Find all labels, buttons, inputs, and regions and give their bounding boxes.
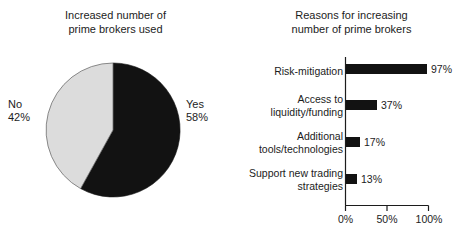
x-tick-label-0: 0% <box>331 214 360 225</box>
pie-label-yes-value: 58% <box>186 111 226 124</box>
pie-label-no-name: No <box>8 98 44 111</box>
bar-value-3: 13% <box>361 174 382 184</box>
bar-category-label-2: Additional tools/technologies <box>259 130 343 155</box>
bar-value-0: 97% <box>431 64 452 74</box>
pie-label-no: No 42% <box>8 98 44 124</box>
bar-0[interactable] <box>346 64 427 74</box>
bar-value-2: 17% <box>364 137 385 147</box>
bar-chart-panel: Reasons for increasing number of prime b… <box>231 0 462 240</box>
x-tick-label-100: 100% <box>410 214 448 225</box>
bar-3[interactable] <box>346 174 357 184</box>
bar-chart-axes <box>231 0 462 240</box>
x-tick-label-50: 50% <box>370 214 404 225</box>
pie-label-no-value: 42% <box>8 111 44 124</box>
bar-2[interactable] <box>346 137 360 147</box>
pie-chart-panel: Increased number of prime brokers used N… <box>0 0 231 240</box>
figure-two-panel-chart: Increased number of prime brokers used N… <box>0 0 462 240</box>
bar-category-label-1: Access to liquidity/funding <box>271 93 343 118</box>
bar-value-1: 37% <box>381 100 402 110</box>
pie-label-yes-name: Yes <box>186 98 226 111</box>
bar-1[interactable] <box>346 100 377 110</box>
bar-category-label-0: Risk-mitigation <box>274 65 343 78</box>
bar-category-label-3: Support new trading strategies <box>249 167 343 192</box>
pie-label-yes: Yes 58% <box>186 98 226 124</box>
